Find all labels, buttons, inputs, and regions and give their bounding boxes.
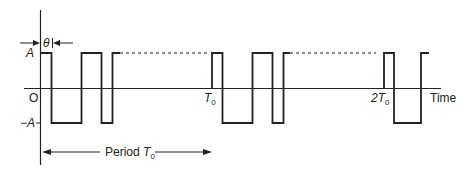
origin-label: O bbox=[29, 92, 38, 104]
theta-arrowhead-right bbox=[53, 40, 60, 46]
waveform-diagram bbox=[0, 0, 474, 171]
tick-label-t0-subscript: 0 bbox=[211, 98, 215, 107]
theta-label: θ bbox=[43, 37, 50, 49]
tick-label-2t0: 2T0 bbox=[371, 92, 389, 107]
period-arrowhead-left bbox=[42, 149, 51, 155]
time-axis-label: Time bbox=[430, 92, 456, 104]
tick-label-t0: T0 bbox=[204, 92, 216, 107]
period-arrowhead-right bbox=[203, 149, 212, 155]
period-label: Period T0 bbox=[105, 146, 155, 161]
level-label-a: A bbox=[26, 47, 34, 59]
period-label-subscript: 0 bbox=[150, 152, 154, 161]
tick-label-2t0-subscript: 0 bbox=[385, 98, 389, 107]
period-label-text: Period bbox=[105, 145, 143, 159]
theta-arrowhead-left bbox=[33, 40, 40, 46]
level-label-minus-a: −A bbox=[20, 117, 35, 129]
tick-label-2t0-symbol: 2T bbox=[371, 91, 385, 105]
